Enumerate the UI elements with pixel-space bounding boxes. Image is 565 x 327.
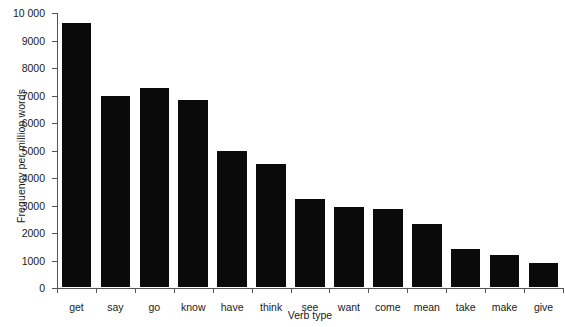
bar xyxy=(373,209,403,287)
plot-area: 010002000300040005000600070008000900010 … xyxy=(57,13,563,288)
y-axis-tick: 7000 xyxy=(52,96,57,97)
x-axis-tick xyxy=(213,288,214,293)
y-axis-tick-label: 3000 xyxy=(22,200,45,212)
x-axis-tick xyxy=(252,288,253,293)
y-axis-tick-label: 0 xyxy=(39,282,45,294)
y-axis-tick-label: 9000 xyxy=(22,35,45,47)
y-axis-line xyxy=(57,13,58,289)
bar xyxy=(490,255,520,287)
y-axis-tick-label: 2000 xyxy=(22,227,45,239)
bar xyxy=(62,23,92,287)
bar xyxy=(451,249,481,288)
bar xyxy=(529,263,559,287)
bar xyxy=(140,88,170,287)
y-axis-tick: 2000 xyxy=(52,233,57,234)
x-axis-tick xyxy=(368,288,369,293)
y-axis-tick: 8000 xyxy=(52,68,57,69)
y-axis-tick-label: 7000 xyxy=(22,90,45,102)
y-axis-tick: 5000 xyxy=(52,151,57,152)
y-axis-tick-label: 6000 xyxy=(22,117,45,129)
y-axis-tick-label: 1000 xyxy=(22,255,45,267)
y-axis-tick-label: 4000 xyxy=(22,172,45,184)
y-axis-tick: 10 000 xyxy=(52,13,57,14)
x-axis-tick xyxy=(329,288,330,293)
x-axis-tick xyxy=(485,288,486,293)
y-axis-tick: 1000 xyxy=(52,261,57,262)
x-axis-tick xyxy=(96,288,97,293)
x-axis-tick xyxy=(524,288,525,293)
x-axis-tick xyxy=(135,288,136,293)
bar xyxy=(217,151,247,287)
x-axis-tick xyxy=(446,288,447,293)
x-axis-tick xyxy=(291,288,292,293)
bar xyxy=(178,100,208,287)
y-axis-tick-label: 8000 xyxy=(22,62,45,74)
x-axis-line xyxy=(57,288,563,289)
bar xyxy=(412,224,442,287)
bar xyxy=(334,207,364,287)
bar-chart: Frequency per million words 010002000300… xyxy=(0,0,565,327)
x-axis-tick xyxy=(174,288,175,293)
bar xyxy=(295,199,325,287)
y-axis-tick: 3000 xyxy=(52,206,57,207)
y-axis-tick: 4000 xyxy=(52,178,57,179)
x-axis-tick xyxy=(563,288,564,293)
y-axis-tick-label: 5000 xyxy=(22,145,45,157)
x-axis-tick xyxy=(57,288,58,293)
y-axis-tick-label: 10 000 xyxy=(13,7,45,19)
x-axis-tick xyxy=(407,288,408,293)
bar xyxy=(101,96,131,287)
bar xyxy=(256,164,286,287)
y-axis-tick: 9000 xyxy=(52,41,57,42)
x-axis-title: Verb type xyxy=(57,309,563,321)
y-axis-tick: 6000 xyxy=(52,123,57,124)
